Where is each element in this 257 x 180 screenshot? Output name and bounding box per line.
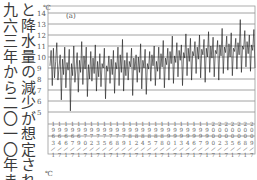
x-tick-char: 9: [148, 127, 152, 133]
x-tick-char: /: [198, 146, 203, 152]
x-tick-char: 9: [77, 140, 81, 146]
y-tick-label: 6: [37, 98, 42, 106]
x-tick-char: 6: [77, 133, 81, 139]
x-tick-char: 8: [160, 133, 164, 139]
x-tick-char: /: [172, 146, 177, 152]
x-tick-char: /: [230, 146, 235, 152]
x-tick-char: 9: [160, 127, 164, 133]
x-tick-char: /: [211, 146, 216, 152]
x-tick-label: 1994/7: [185, 121, 190, 158]
x-tick-label: 1970/7: [83, 121, 88, 158]
x-tick-char: 9: [167, 127, 171, 133]
x-tick-char: 2: [231, 121, 235, 127]
x-tick-char: 1: [51, 152, 55, 158]
chart-panel-label: (a): [66, 12, 76, 20]
x-tick-char: 0: [231, 133, 235, 139]
x-tick-char: 1: [199, 121, 203, 127]
x-tick-char: 1: [244, 152, 248, 158]
x-tick-char: 9: [173, 133, 177, 139]
x-tick-char: /: [115, 146, 120, 152]
x-tick-char: 0: [224, 133, 228, 139]
x-tick-char: 9: [205, 140, 209, 146]
x-tick-char: /: [166, 146, 171, 152]
x-tick-char: /: [140, 146, 145, 152]
y-axis-unit-label: ℃: [43, 4, 51, 12]
x-tick-char: 1: [218, 152, 222, 158]
x-tick-char: 9: [192, 133, 196, 139]
y-tick-label: 10: [37, 54, 46, 62]
x-tick-char: /: [236, 146, 241, 152]
x-tick-char: 1: [154, 121, 158, 127]
x-tick-char: 7: [173, 152, 177, 158]
x-tick-label: 1993/1: [179, 121, 184, 158]
x-tick-char: /: [83, 146, 88, 152]
x-tick-char: 7: [122, 133, 126, 139]
x-tick-char: 7: [71, 152, 75, 158]
x-tick-label: 1982/7: [134, 121, 139, 158]
x-tick-label: 1969/1: [76, 121, 81, 158]
x-tick-char: 7: [109, 152, 113, 158]
x-tick-label: 1996/1: [192, 121, 197, 158]
x-tick-char: /: [134, 146, 139, 152]
x-tick-char: /: [249, 146, 254, 152]
x-tick-char: 0: [212, 127, 216, 133]
y-tick-label: 9: [37, 65, 41, 73]
x-tick-char: 0: [218, 133, 222, 139]
x-tick-char: 6: [64, 140, 68, 146]
x-tick-char: 5: [103, 140, 107, 146]
x-tick-char: 9: [51, 127, 55, 133]
x-tick-char: /: [217, 146, 222, 152]
x-axis-ticks: 1963/11964/71966/11967/71969/11970/71972…: [51, 121, 255, 158]
x-tick-char: /: [204, 146, 209, 152]
x-tick-label: 1975/1: [102, 121, 107, 158]
x-tick-char: 0: [237, 133, 241, 139]
x-tick-label: 1997/7: [198, 121, 203, 158]
x-tick-label: 1991/7: [172, 121, 177, 158]
x-tick-char: 1: [148, 121, 152, 127]
x-tick-char: 1: [90, 152, 94, 158]
x-tick-char: 1: [51, 121, 55, 127]
x-tick-char: 7: [212, 152, 216, 158]
x-tick-char: 6: [109, 140, 113, 146]
x-tick-char: 7: [58, 152, 62, 158]
x-tick-char: 6: [192, 140, 196, 146]
x-tick-label: 1976/7: [108, 121, 113, 158]
x-tick-char: 9: [122, 140, 126, 146]
x-tick-char: 7: [199, 152, 203, 158]
x-tick-char: 0: [250, 127, 254, 133]
x-tick-char: 1: [128, 121, 132, 127]
x-tick-char: /: [128, 146, 133, 152]
x-tick-char: 0: [244, 127, 248, 133]
x-tick-char: 9: [250, 140, 254, 146]
x-tick-char: 7: [186, 152, 190, 158]
x-tick-char: 2: [212, 121, 216, 127]
x-tick-char: 1: [109, 121, 113, 127]
x-tick-char: /: [89, 146, 94, 152]
x-tick-char: 7: [83, 133, 87, 139]
x-tick-char: 2: [224, 121, 228, 127]
x-tick-char: 2: [90, 140, 94, 146]
body-text-column-left: 九六三年から二〇一〇年までの: [1, 2, 17, 180]
x-tick-char: 9: [199, 127, 203, 133]
x-tick-char: 9: [71, 127, 75, 133]
x-tick-char: 7: [148, 152, 152, 158]
y-tick-label: 11: [37, 43, 46, 51]
x-tick-char: 7: [83, 152, 87, 158]
x-tick-char: 1: [160, 121, 164, 127]
x-tick-char: 1: [115, 152, 119, 158]
x-tick-char: 6: [64, 133, 68, 139]
x-tick-char: /: [243, 146, 248, 152]
x-tick-label: 1973/7: [96, 121, 101, 158]
x-tick-char: 9: [173, 127, 177, 133]
x-tick-char: 2: [244, 121, 248, 127]
x-tick-char: 9: [115, 127, 119, 133]
x-tick-char: /: [102, 146, 107, 152]
x-tick-char: 6: [71, 133, 75, 139]
x-tick-char: 9: [128, 127, 132, 133]
x-tick-char: 8: [115, 140, 119, 146]
x-tick-char: 7: [90, 133, 94, 139]
y-tick-label: 5: [37, 109, 41, 117]
x-tick-char: 0: [167, 140, 171, 146]
x-tick-char: 5: [231, 140, 235, 146]
x-tick-char: 9: [180, 133, 184, 139]
